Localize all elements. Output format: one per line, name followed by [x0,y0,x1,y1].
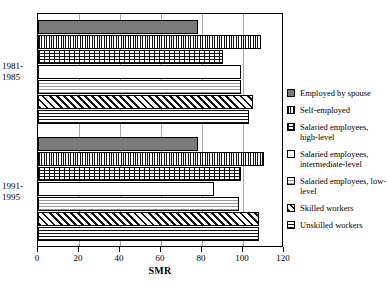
legend-item-0[interactable]: Employed by spouse [287,88,387,98]
bar-1991-1995-series-2 [38,167,241,181]
legend-swatch-icon-3 [287,150,295,158]
group-label-line-1: 1991- [2,181,35,192]
legend-label-2: Salaried employees, high-level [300,122,387,142]
group-label-line-2: 1995 [2,192,35,203]
x-tick-label-0: 0 [22,252,52,264]
bar-1991-1995-series-1 [38,152,264,166]
legend-item-5[interactable]: Skilled workers [287,203,387,213]
x-tick-label-60: 60 [145,252,175,264]
bar-1991-1995-series-0 [38,137,198,151]
bar-1981-1985-series-1 [38,35,261,49]
bar-1981-1985-series-4 [38,80,241,94]
x-axis-title: SMR [37,265,283,276]
bar-1991-1995-series-3 [38,182,214,196]
bar-1981-1985-series-6 [38,110,249,124]
y-axis-group-label-1991-1995: 1991- 1995 [2,181,35,203]
bar-1991-1995-series-5 [38,212,259,226]
bars-layer [38,14,282,246]
plot-area [37,13,283,247]
group-label-line-1: 1981- [2,61,35,72]
legend-item-6[interactable]: Unskilled workers [287,220,387,230]
bar-1981-1985-series-2 [38,50,223,64]
legend: Employed by spouseSelf-employedSalaried … [287,88,387,237]
legend-swatch-icon-0 [287,89,295,97]
bar-1981-1985-series-3 [38,65,241,79]
legend-item-3[interactable]: Salaried employees, intermediate-level [287,149,387,169]
x-tick-label-100: 100 [227,252,257,264]
y-axis-group-label-1981-1985: 1981- 1985 [2,61,35,83]
legend-swatch-icon-1 [287,106,295,114]
legend-swatch-icon-2 [287,123,295,131]
group-label-line-2: 1985 [2,72,35,83]
legend-label-3: Salaried employees, intermediate-level [300,149,387,169]
bar-1991-1995-series-4 [38,197,239,211]
legend-label-1: Self-employed [300,105,387,115]
legend-label-6: Unskilled workers [300,220,387,230]
legend-swatch-icon-5 [287,204,295,212]
legend-item-2[interactable]: Salaried employees, high-level [287,122,387,142]
legend-label-4: Salaried employees, low-level [300,176,387,196]
chart-container: 1981- 1985 1991- 1995 020406080100120 SM… [0,0,387,284]
bar-1981-1985-series-0 [38,20,198,34]
legend-item-4[interactable]: Salaried employees, low-level [287,176,387,196]
legend-swatch-icon-4 [287,177,295,185]
x-tick-label-40: 40 [104,252,134,264]
legend-swatch-icon-6 [287,221,295,229]
x-tick-label-20: 20 [63,252,93,264]
bar-1991-1995-series-6 [38,227,259,241]
legend-item-1[interactable]: Self-employed [287,105,387,115]
legend-label-0: Employed by spouse [300,88,387,98]
legend-label-5: Skilled workers [300,203,387,213]
x-tick-label-120: 120 [268,252,298,264]
x-tick-label-80: 80 [186,252,216,264]
x-axis-tick-labels: 020406080100120 [0,252,387,266]
bar-1981-1985-series-5 [38,95,253,109]
